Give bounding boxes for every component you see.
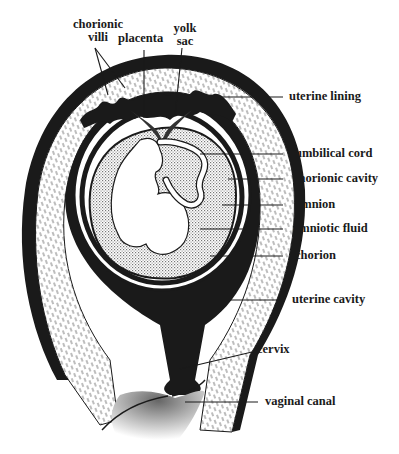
label-amnion: amnion <box>295 198 335 211</box>
label-yolk-sac: yolk sac <box>168 22 202 47</box>
label-vaginal-canal: vaginal canal <box>265 395 336 408</box>
label-yolk-sac-line2: sac <box>168 35 202 48</box>
label-yolk-sac-line1: yolk <box>168 22 202 35</box>
label-placenta: placenta <box>118 32 163 45</box>
label-umbilical-cord: umbilical cord <box>295 147 372 160</box>
label-amniotic-fluid: amniotic fluid <box>293 222 368 235</box>
label-cervix: cervix <box>257 343 290 356</box>
label-uterine-lining: uterine lining <box>289 90 361 103</box>
label-chorionic-villi-line1: chorionic <box>58 18 138 31</box>
label-chorionic-cavity: chorionic cavity <box>293 172 378 185</box>
label-chorion: chorion <box>295 249 336 262</box>
label-uterine-cavity: uterine cavity <box>292 293 365 306</box>
